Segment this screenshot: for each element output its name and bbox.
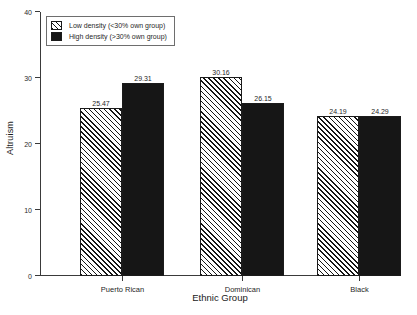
legend-label-high-density: High density (>30% own group) <box>69 33 167 40</box>
y-tick-0: 0 <box>35 275 40 276</box>
legend-item-low-density: Low density (<30% own group) <box>51 20 167 31</box>
y-tick-label-30: 30 <box>24 74 32 81</box>
bar-dominican-high-density: 26.15 <box>242 103 284 276</box>
y-tick-label-10: 10 <box>24 206 32 213</box>
plot-area: 0 10 20 30 40 25.47 29.31 Puerto Rican 3… <box>40 12 400 276</box>
bar-puerto-rican-low-density: 25.47 <box>80 108 122 276</box>
y-tick-label-0: 0 <box>28 272 32 279</box>
y-tick-label-40: 40 <box>24 8 32 15</box>
bar-dominican-low-density: 30.16 <box>200 77 242 276</box>
legend: Low density (<30% own group) High densit… <box>46 16 175 46</box>
bar-black-low-density: 24.19 <box>317 116 359 276</box>
y-tick-20: 20 <box>35 143 40 144</box>
x-tick-black: Black <box>359 276 360 281</box>
bar-value-dominican-high: 26.15 <box>254 95 272 102</box>
bar-value-puerto-rican-high: 29.31 <box>134 75 152 82</box>
x-tick-dominican: Dominican <box>242 276 243 281</box>
y-tick-30: 30 <box>35 77 40 78</box>
legend-swatch-solid-icon <box>51 32 62 41</box>
x-tick-puerto-rican: Puerto Rican <box>122 276 123 281</box>
bar-value-black-high: 24.29 <box>371 108 389 115</box>
bar-puerto-rican-high-density: 29.31 <box>122 83 164 276</box>
bar-value-dominican-low: 30.16 <box>212 69 230 76</box>
legend-swatch-hatched-icon <box>51 21 62 30</box>
y-tick-label-20: 20 <box>24 140 32 147</box>
legend-label-low-density: Low density (<30% own group) <box>69 22 165 29</box>
y-axis-line <box>40 12 41 276</box>
bar-chart: Altruism 0 10 20 30 40 25.47 29.31 Puert… <box>0 0 417 315</box>
bar-value-puerto-rican-low: 25.47 <box>92 100 110 107</box>
y-axis-title-text: Altruism <box>5 121 15 155</box>
x-axis-title: Ethnic Group <box>40 292 400 303</box>
legend-item-high-density: High density (>30% own group) <box>51 31 167 42</box>
y-tick-10: 10 <box>35 209 40 210</box>
y-axis-title: Altruism <box>2 0 18 276</box>
bar-black-high-density: 24.29 <box>359 116 401 276</box>
bar-value-black-low: 24.19 <box>329 108 347 115</box>
y-tick-40: 40 <box>35 11 40 12</box>
